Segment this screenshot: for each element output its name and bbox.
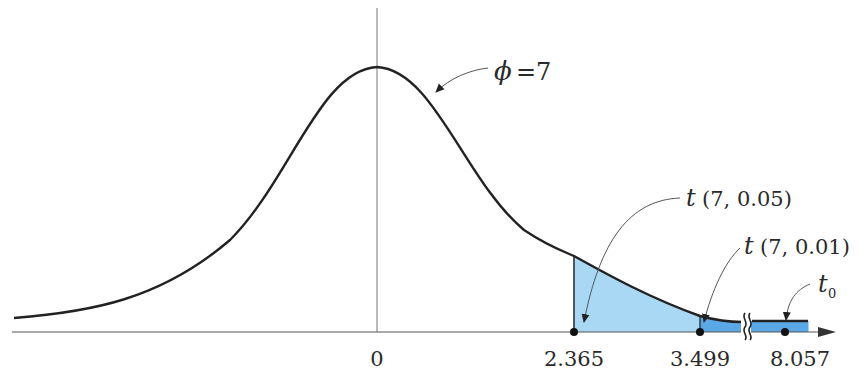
point-2365 <box>570 328 578 336</box>
tick-label-8057: 8.057 <box>770 347 830 371</box>
ann-001-t: t <box>744 232 754 260</box>
ann-t0-leader-line <box>786 284 810 320</box>
density-curve <box>14 67 742 322</box>
phi-leader-line <box>436 68 488 92</box>
x-axis-arrow-icon <box>818 327 836 337</box>
tick-label-3499: 3.499 <box>670 347 730 371</box>
tick-label-0: 0 <box>370 347 383 371</box>
point-3499 <box>696 328 704 336</box>
phi-value: =7 <box>516 58 551 86</box>
phi-symbol: ϕ <box>494 56 512 86</box>
ann-005-t: t <box>686 184 696 212</box>
ann-005-args: (7, 0.05) <box>702 187 792 211</box>
tick-label-2365: 2.365 <box>544 347 604 371</box>
ann-t0-t: t <box>818 270 828 298</box>
ann-t0-sub: 0 <box>828 286 836 301</box>
ann-001-leader-line <box>704 248 740 322</box>
point-8057 <box>781 328 789 336</box>
axis-break-icon <box>741 312 751 340</box>
ann-001-args: (7, 0.01) <box>760 235 850 259</box>
region-tail-after-break <box>750 321 808 332</box>
t-distribution-chart: 0 2.365 3.499 8.057 ϕ =7 t (7, 0.05) t (… <box>0 0 859 388</box>
